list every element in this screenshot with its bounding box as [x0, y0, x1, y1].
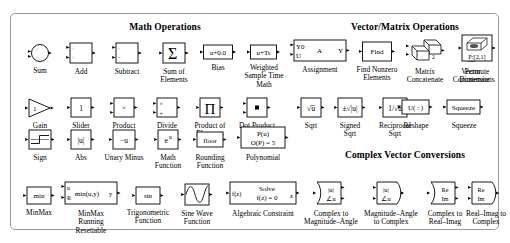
- signed-sqrt-icon: ±√|u|: [333, 95, 367, 120]
- assignment-in1-label: Y0: [296, 43, 305, 51]
- section-title-math-operations: Math Operations: [70, 22, 260, 32]
- block-sum-of-elements[interactable]: Σ Sum of Elements: [152, 40, 196, 85]
- reim-to-complex-in1-label: Re: [478, 186, 485, 193]
- algebraic-constraint-icon: f(z) Solve f(z) = 0 z: [225, 180, 301, 208]
- block-divide[interactable]: × ÷ Divide: [146, 95, 188, 130]
- block-caption: Signed Sqrt: [340, 122, 361, 139]
- block-product[interactable]: × Product: [102, 95, 146, 130]
- sum-circle-icon: + +: [27, 41, 53, 65]
- block-sqrt[interactable]: √u̅ Sqrt: [293, 95, 329, 130]
- block-assignment[interactable]: Y0 U A Y Assignment: [289, 38, 351, 74]
- product-glyph: ×: [122, 104, 126, 112]
- product-of-elements-icon: Π: [195, 95, 225, 120]
- algebraic-out-label: z: [290, 192, 293, 199]
- block-polynomial[interactable]: P(u) O(P) = 5 Polynomial: [234, 125, 292, 162]
- complex-to-real-imag-icon: Re Im: [425, 180, 465, 208]
- algebraic-line1: Solve: [259, 185, 275, 193]
- block-caption: Complex to Real–Imag: [428, 210, 463, 227]
- svg-text:+: +: [36, 55, 39, 60]
- block-find-nonzero-elements[interactable]: Find Find Nonzero Elements: [352, 40, 402, 83]
- block-abs[interactable]: |u| Abs: [60, 128, 102, 162]
- block-caption: Bias: [211, 64, 224, 72]
- block-permute-dimensions[interactable]: P:[2,1] Permute Dimensions: [443, 33, 510, 85]
- algebraic-line2: f(z) = 0: [256, 194, 278, 202]
- block-caption: Squeeze: [452, 122, 477, 130]
- permute-dimensions-glyph: P:[2,1]: [468, 53, 485, 61]
- product-of-elements-glyph: Π: [205, 101, 216, 117]
- block-sign[interactable]: Sign: [18, 128, 62, 162]
- block-gain[interactable]: 1 Gain: [18, 96, 62, 130]
- block-bias[interactable]: u+0.0 Bias: [196, 42, 240, 72]
- divide-glyph-times: ×: [160, 101, 163, 107]
- mag-to-complex-in2-label: ∠u: [381, 195, 391, 202]
- permute-dimensions-icon: P:[2,1]: [454, 33, 500, 66]
- reshape-glyph: U( : ): [408, 104, 424, 112]
- block-reshape[interactable]: U( : ) Reshape: [394, 95, 438, 130]
- block-trigonometric-function[interactable]: sin Trigonometric Function: [122, 185, 174, 226]
- block-caption: Sum of Elements: [160, 68, 188, 85]
- math-function-exponent: u: [169, 134, 172, 140]
- block-squeeze[interactable]: Squeeze Squeeze: [440, 95, 488, 130]
- matrix-concatenate-icon: 2: [402, 36, 448, 66]
- block-caption: Sign: [33, 154, 47, 162]
- assignment-block-icon: Y0 U A Y: [289, 38, 351, 64]
- block-caption: Subtract: [115, 68, 140, 76]
- block-caption: MinMax Running Resettable: [76, 210, 107, 235]
- bias-glyph: u+0.0: [210, 49, 227, 57]
- section-title-vector-matrix: Vector/Matrix Operations: [320, 22, 490, 32]
- block-minmax[interactable]: min MinMax: [18, 185, 60, 217]
- block-signed-sqrt[interactable]: ±√|u| Signed Sqrt: [328, 95, 372, 139]
- block-caption: Rounding Function: [195, 154, 224, 171]
- reshape-block-icon: U( : ): [397, 95, 435, 120]
- slider-gain-icon: 1: [66, 95, 96, 120]
- weighted-sample-glyph: u+Ts: [257, 49, 271, 57]
- complex-to-reim-out1-label: Re: [442, 186, 449, 193]
- block-add[interactable]: + + Add: [60, 40, 102, 76]
- block-caption: Matrix Concatenate: [407, 68, 444, 85]
- block-sine-wave-function[interactable]: Sine Wave Function: [174, 182, 220, 227]
- block-caption: Permute Dimensions: [459, 68, 494, 85]
- squeeze-block-icon: Squeeze: [442, 95, 486, 120]
- signed-sqrt-glyph: ±√|u|: [343, 104, 358, 113]
- block-caption: Abs: [75, 154, 87, 162]
- minmax-block-icon: min: [22, 185, 56, 207]
- assignment-in2-label: U: [296, 52, 301, 60]
- svg-text:+: +: [36, 47, 39, 52]
- minmax-running-icon: u R min(u,y) y: [60, 180, 122, 208]
- block-weighted-sample-time-math[interactable]: u+Ts Weighted Sample Time Math: [240, 42, 288, 89]
- block-caption: Sum: [33, 67, 47, 75]
- rounding-function-icon: floor: [192, 128, 228, 152]
- section-title-complex-vector: Complex Vector Conversions: [320, 150, 490, 160]
- bias-block-icon: u+0.0: [199, 42, 237, 62]
- block-caption: MinMax: [26, 209, 52, 217]
- block-caption: Polynomial: [246, 154, 280, 162]
- minmax-body-label: min(u,y): [75, 190, 100, 198]
- unary-minus-glyph: −u: [120, 136, 128, 145]
- block-complex-to-magnitude-angle[interactable]: |u| ∠u Complex to Magnitude–Angle: [300, 180, 362, 227]
- abs-glyph: |u|: [78, 136, 85, 145]
- polynomial-line1: P(u): [257, 130, 270, 138]
- minmax-in2-label: R: [67, 195, 71, 201]
- block-subtract[interactable]: + − Subtract: [104, 40, 150, 76]
- block-minmax-running-resettable[interactable]: u R min(u,y) y MinMax Running Resettable: [60, 180, 122, 235]
- divide-block-icon: × ÷: [152, 95, 182, 120]
- block-caption: Reshape: [403, 122, 428, 130]
- block-rounding-function[interactable]: floor Rounding Function: [186, 128, 234, 171]
- find-glyph: Find: [371, 48, 384, 56]
- block-caption: Algebraic Constraint: [232, 210, 294, 218]
- block-algebraic-constraint[interactable]: f(z) Solve f(z) = 0 z Algebraic Constrai…: [222, 180, 304, 218]
- subtract-block-icon: + −: [111, 40, 143, 66]
- add-block-icon: + +: [65, 40, 97, 66]
- block-real-imag-to-complex[interactable]: Re Im Real–Imag to Complex: [462, 180, 510, 227]
- svg-text:Σ: Σ: [168, 45, 177, 62]
- block-unary-minus[interactable]: −u Unary Minus: [100, 128, 148, 162]
- matrix-concatenate-glyph: 2: [432, 54, 435, 60]
- svg-text:−: −: [118, 54, 121, 60]
- trigonometric-glyph: sin: [144, 192, 153, 200]
- block-math-function[interactable]: e u Math Function: [148, 128, 188, 171]
- block-sum[interactable]: + + Sum: [20, 41, 60, 75]
- reim-to-complex-in2-label: Im: [478, 195, 485, 202]
- block-magnitude-angle-to-complex[interactable]: |u| ∠u Magnitude–Angle to Complex: [360, 180, 422, 227]
- product-block-icon: ×: [109, 95, 139, 120]
- block-caption: Assignment: [302, 66, 337, 74]
